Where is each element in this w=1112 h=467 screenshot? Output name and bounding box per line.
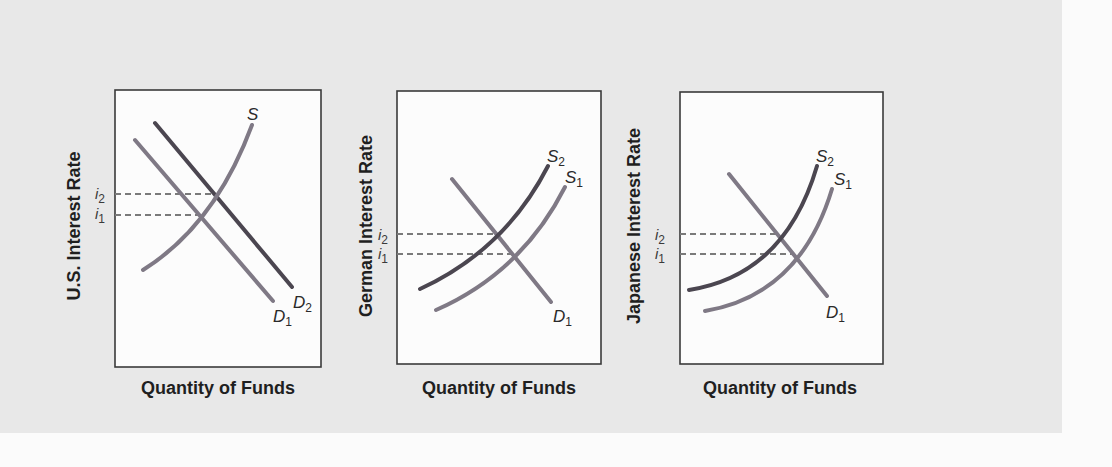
interest-rate-label-i2: i2: [95, 185, 105, 206]
x-axis-title: Quantity of Funds: [141, 378, 295, 398]
curve-label-s: S: [247, 105, 259, 124]
x-axis-title: Quantity of Funds: [703, 378, 857, 398]
interest-rate-label-i2: i2: [378, 226, 388, 247]
panel-us: U.S. Interest RateQuantity of Fundsi2i1D…: [64, 90, 321, 398]
panel-japanese: Japanese Interest RateQuantity of Fundsi…: [624, 92, 883, 398]
x-axis-title: Quantity of Funds: [422, 378, 576, 398]
panel-german: German Interest RateQuantity of Fundsi2i…: [356, 91, 601, 398]
plot-frame: [680, 92, 883, 364]
figure-stage: U.S. Interest RateQuantity of Fundsi2i1D…: [0, 0, 1112, 467]
y-axis-title: German Interest Rate: [356, 135, 376, 317]
y-axis-title: U.S. Interest Rate: [64, 151, 84, 300]
loanable-funds-diagrams: U.S. Interest RateQuantity of Fundsi2i1D…: [0, 0, 1112, 467]
interest-rate-label-i1: i1: [655, 245, 665, 266]
interest-rate-label-i2: i2: [655, 226, 665, 247]
interest-rate-label-i1: i1: [378, 245, 388, 266]
y-axis-title: Japanese Interest Rate: [624, 128, 644, 324]
interest-rate-label-i1: i1: [95, 205, 105, 226]
